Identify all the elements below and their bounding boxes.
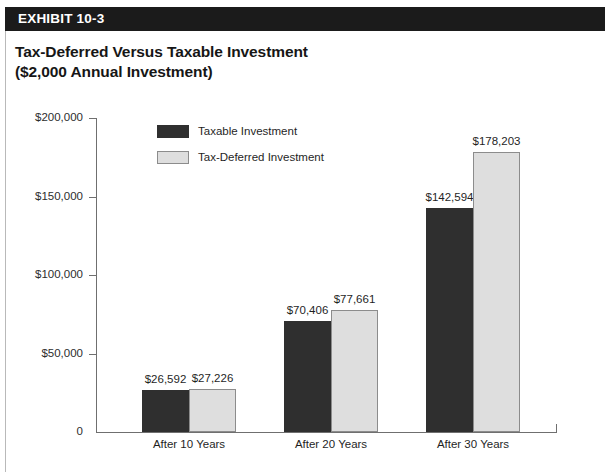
bar-taxable xyxy=(284,321,331,432)
bar-taxable xyxy=(142,390,189,432)
y-axis-tick xyxy=(89,197,97,198)
legend-item-tax-deferred: Tax-Deferred Investment xyxy=(157,144,324,170)
chart-plot-area: $200,000$150,000$100,000$50,0000$26,592$… xyxy=(0,0,605,472)
x-axis-category-label: After 10 Years xyxy=(112,438,266,450)
legend-swatch-taxable-icon xyxy=(157,125,189,138)
bar-value-label: $178,203 xyxy=(460,135,533,147)
bar-taxable xyxy=(426,208,473,432)
y-axis-tick-label: $100,000 xyxy=(5,268,83,280)
y-axis-tick-label: $150,000 xyxy=(5,190,83,202)
x-axis-line xyxy=(96,432,557,433)
y-axis-tick-label: 0 xyxy=(5,425,83,437)
legend-swatch-tax-deferred-icon xyxy=(157,151,189,164)
x-axis-category-label: After 20 Years xyxy=(254,438,408,450)
bar-value-label: $27,226 xyxy=(176,372,249,384)
bar-tax-deferred xyxy=(331,310,378,432)
exhibit-page: EXHIBIT 10-3 Tax-Deferred Versus Taxable… xyxy=(0,0,605,472)
bar-tax-deferred xyxy=(473,152,520,432)
y-axis-tick xyxy=(89,275,97,276)
x-axis-end-tick xyxy=(556,424,557,432)
y-axis-tick-label: $50,000 xyxy=(5,347,83,359)
bar-value-label: $77,661 xyxy=(318,293,391,305)
legend-label-tax-deferred: Tax-Deferred Investment xyxy=(198,151,324,163)
chart-legend: Taxable Investment Tax-Deferred Investme… xyxy=(157,118,324,170)
y-axis-tick xyxy=(89,118,97,119)
x-axis-category-label: After 30 Years xyxy=(396,438,550,450)
y-axis-tick xyxy=(89,354,97,355)
exhibit-footnote xyxy=(18,464,598,472)
y-axis-tick-label: $200,000 xyxy=(5,111,83,123)
bar-tax-deferred xyxy=(189,389,236,432)
legend-label-taxable: Taxable Investment xyxy=(198,125,297,137)
legend-item-taxable: Taxable Investment xyxy=(157,118,324,144)
